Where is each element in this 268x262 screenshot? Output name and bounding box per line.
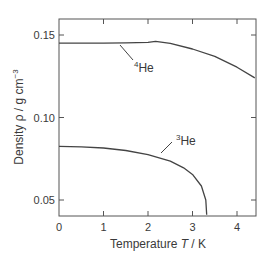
x-axis-label: Temperature T / K — [110, 237, 206, 251]
y-tick-label: 0.05 — [34, 194, 55, 206]
series-line-4He — [59, 41, 255, 78]
x-tick-label: 4 — [234, 221, 240, 233]
x-tick-label: 3 — [189, 221, 195, 233]
y-axis-ticks: 0.050.100.15 — [34, 29, 256, 206]
x-axis-ticks: 01234 — [56, 19, 240, 233]
annotation-leader-line — [120, 45, 133, 60]
x-tick-label: 0 — [56, 221, 62, 233]
x-tick-label: 1 — [100, 221, 106, 233]
annotation-label-4He: 4He — [134, 60, 154, 75]
x-tick-label: 2 — [145, 221, 151, 233]
series-annotations: 4He3He — [120, 45, 196, 153]
y-axis-label: Density ρ / g cm−3 — [11, 69, 26, 165]
series-lines — [59, 41, 255, 215]
series-line-3He — [59, 146, 207, 214]
annotation-label-3He: 3He — [176, 133, 196, 148]
plot-frame — [59, 19, 256, 216]
density-chart: 01234 0.050.100.15 4He3He Temperature T … — [0, 0, 268, 262]
y-tick-label: 0.15 — [34, 29, 55, 41]
y-tick-label: 0.10 — [34, 112, 55, 124]
annotation-leader-line — [161, 142, 172, 153]
